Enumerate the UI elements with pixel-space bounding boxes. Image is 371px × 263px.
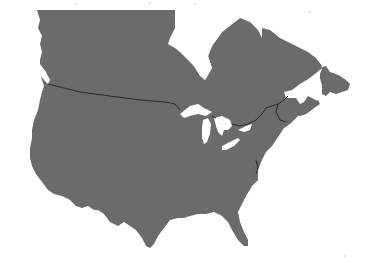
map-container: [0, 0, 371, 263]
newfoundland: [320, 66, 350, 96]
north-america-map: [0, 0, 371, 263]
speck: [309, 11, 311, 13]
speck: [149, 2, 151, 4]
speck: [344, 255, 346, 257]
speck: [75, 3, 77, 5]
speck: [194, 3, 196, 5]
